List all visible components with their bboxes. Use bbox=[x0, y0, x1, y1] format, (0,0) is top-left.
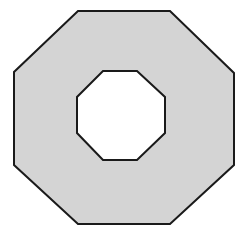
inner-octagon-hole-shape bbox=[77, 71, 165, 160]
figure-canvas bbox=[0, 0, 239, 244]
octagonal-ring-diagram bbox=[0, 0, 239, 244]
